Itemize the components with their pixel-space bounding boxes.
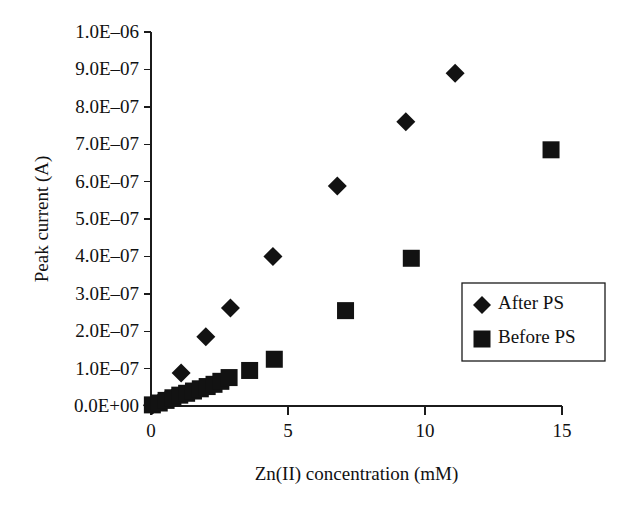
- y-axis-tick-label: 3.0E–07: [75, 283, 139, 304]
- data-point-diamond: [396, 112, 415, 131]
- data-point-square: [337, 302, 354, 319]
- data-point-diamond: [172, 364, 191, 383]
- x-axis-tick-label: 0: [146, 420, 156, 441]
- y-axis-tick-label: 1.0E–06: [75, 21, 139, 42]
- data-point-diamond: [446, 64, 465, 83]
- data-series-group: [143, 64, 560, 415]
- y-axis-tick-label: 0.0E+00: [74, 395, 139, 416]
- x-axis-title: Zn(II) concentration (mM): [255, 463, 459, 485]
- series-before-ps: [144, 141, 560, 413]
- data-point-square: [241, 362, 258, 379]
- scatter-plot: 0.0E+001.0E–072.0E–073.0E–074.0E–075.0E–…: [0, 0, 629, 509]
- chart-legend: After PSBefore PS: [462, 283, 605, 361]
- y-axis-tick-label: 5.0E–07: [75, 208, 139, 229]
- data-point-diamond: [328, 177, 347, 196]
- x-axis-tick-label: 15: [553, 420, 572, 441]
- y-axis: 0.0E+001.0E–072.0E–073.0E–074.0E–075.0E–…: [74, 21, 151, 416]
- data-point-square: [543, 141, 560, 158]
- chart-figure: 0.0E+001.0E–072.0E–073.0E–074.0E–075.0E–…: [0, 0, 629, 509]
- x-axis-tick-label: 10: [416, 420, 435, 441]
- y-axis-tick-label: 7.0E–07: [75, 133, 139, 154]
- y-axis-tick-label: 9.0E–07: [75, 58, 139, 79]
- x-axis-tick-label: 5: [283, 420, 293, 441]
- data-point-diamond: [221, 299, 240, 318]
- x-axis: 051015: [146, 406, 571, 441]
- data-point-square: [403, 250, 420, 267]
- data-point-diamond: [196, 327, 215, 346]
- data-point-square: [266, 351, 283, 368]
- legend-label: After PS: [498, 292, 564, 313]
- data-point-diamond: [263, 247, 282, 266]
- legend-marker-square: [474, 331, 491, 348]
- y-axis-tick-label: 6.0E–07: [75, 171, 139, 192]
- series-after-ps: [143, 64, 465, 415]
- y-axis-tick-label: 8.0E–07: [75, 96, 139, 117]
- data-point-square: [221, 369, 238, 386]
- legend-label: Before PS: [498, 326, 576, 347]
- y-axis-tick-label: 4.0E–07: [75, 245, 139, 266]
- y-axis-title: Peak current (A): [31, 156, 53, 283]
- y-axis-tick-label: 1.0E–07: [75, 358, 139, 379]
- y-axis-tick-label: 2.0E–07: [75, 320, 139, 341]
